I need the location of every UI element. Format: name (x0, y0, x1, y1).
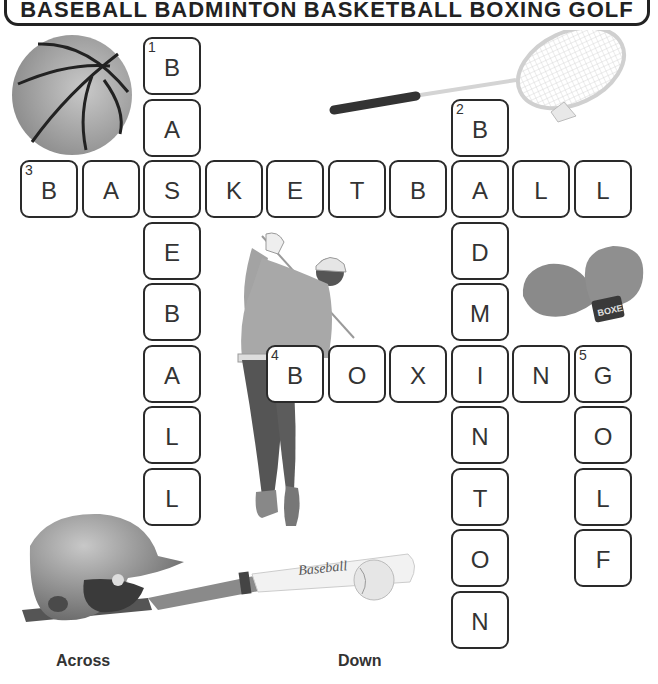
cell-letter: B (164, 54, 180, 82)
crossword-cell[interactable]: T (328, 160, 386, 218)
cell-letter: L (534, 177, 547, 205)
down-label: Down (338, 652, 382, 670)
cell-letter: B (41, 177, 57, 205)
crossword-cell[interactable]: L (143, 406, 201, 464)
cell-letter: D (471, 239, 488, 267)
cell-letter: B (472, 116, 488, 144)
cell-letter: L (596, 177, 609, 205)
cell-letter: T (350, 177, 365, 205)
word-bank-item: BASEBALL (20, 0, 148, 21)
cell-letter: N (532, 362, 549, 390)
word-bank-item: GOLF (569, 0, 634, 21)
word-bank-item: BOXING (469, 0, 562, 21)
crossword-cell[interactable]: O (328, 345, 386, 403)
cell-letter: T (473, 485, 488, 513)
crossword-cell[interactable]: B (389, 160, 447, 218)
crossword-cell[interactable]: K (205, 160, 263, 218)
word-bank: BASEBALL BADMINTON BASKETBALL BOXING GOL… (4, 0, 650, 26)
clue-number: 1 (148, 39, 156, 55)
clue-number: 5 (579, 347, 587, 363)
crossword-cell[interactable]: 3B (20, 160, 78, 218)
word-bank-item: BADMINTON (154, 0, 297, 21)
clue-number: 4 (271, 347, 279, 363)
cell-letter: A (164, 116, 180, 144)
crossword-cell[interactable]: O (574, 406, 632, 464)
crossword-cell[interactable]: 1B (143, 37, 201, 95)
cell-letter: K (226, 177, 242, 205)
crossword-cell[interactable]: L (574, 468, 632, 526)
crossword-cell[interactable]: I (451, 345, 509, 403)
crossword-cell[interactable]: L (143, 468, 201, 526)
crossword-cell[interactable]: M (451, 283, 509, 341)
cell-letter: B (164, 300, 180, 328)
word-bank-item: BASKETBALL (304, 0, 463, 21)
crossword-cell[interactable]: E (143, 222, 201, 280)
cell-letter: A (103, 177, 119, 205)
crossword-cell[interactable]: L (512, 160, 570, 218)
crossword-cell[interactable]: D (451, 222, 509, 280)
basketball-icon (8, 32, 136, 158)
crossword-cell[interactable]: F (574, 529, 632, 587)
cell-letter: L (165, 423, 178, 451)
cell-letter: X (410, 362, 426, 390)
cell-letter: N (471, 423, 488, 451)
cell-letter: A (164, 362, 180, 390)
clue-number: 3 (25, 162, 33, 178)
cell-letter: M (470, 300, 490, 328)
cell-letter: I (477, 362, 484, 390)
across-label: Across (56, 652, 110, 670)
crossword-cell[interactable]: X (389, 345, 447, 403)
crossword-cell[interactable]: A (143, 99, 201, 157)
crossword-cell[interactable]: 2B (451, 99, 509, 157)
cell-letter: E (164, 239, 180, 267)
cell-letter: G (594, 362, 613, 390)
crossword-cell[interactable]: B (143, 283, 201, 341)
cell-letter: O (348, 362, 367, 390)
cell-letter: L (165, 485, 178, 513)
cell-letter: B (410, 177, 426, 205)
cell-letter: A (472, 177, 488, 205)
crossword-cell[interactable]: T (451, 468, 509, 526)
cell-letter: O (594, 423, 613, 451)
crossword-cell[interactable]: A (82, 160, 140, 218)
baseball-helmet-bat-ball-icon: Baseball (8, 506, 428, 626)
crossword-cell[interactable]: A (451, 160, 509, 218)
crossword-cell[interactable]: N (451, 406, 509, 464)
crossword-cell[interactable]: O (451, 529, 509, 587)
crossword-cell[interactable]: 4B (266, 345, 324, 403)
cell-letter: F (596, 546, 611, 574)
crossword-cell[interactable]: 5G (574, 345, 632, 403)
cell-letter: L (596, 485, 609, 513)
cell-letter: S (164, 177, 180, 205)
crossword-cell[interactable]: N (512, 345, 570, 403)
cell-letter: N (471, 608, 488, 636)
crossword-cell[interactable]: L (574, 160, 632, 218)
cell-letter: E (287, 177, 303, 205)
crossword-cell[interactable]: A (143, 345, 201, 403)
crossword-cell[interactable]: N (451, 591, 509, 649)
cell-letter: B (287, 362, 303, 390)
cell-letter: O (471, 546, 490, 574)
crossword-cell[interactable]: S (143, 160, 201, 218)
boxing-gloves-icon: BOXE (515, 240, 655, 330)
clue-number: 2 (456, 101, 464, 117)
crossword-cell[interactable]: E (266, 160, 324, 218)
